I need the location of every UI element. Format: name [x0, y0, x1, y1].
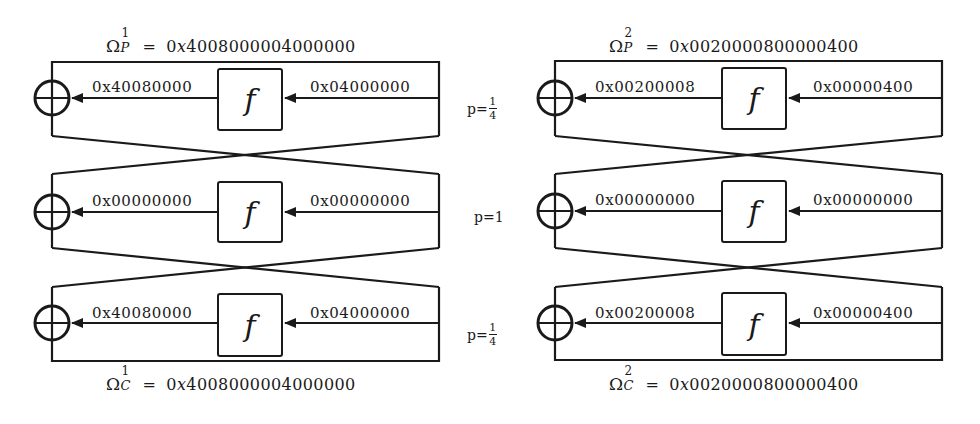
f-label: f	[748, 307, 759, 342]
xor-icon	[35, 195, 69, 229]
xor-icon	[538, 194, 572, 228]
f-input-difference: 0x00000000	[310, 194, 410, 209]
f-label: f	[748, 81, 759, 116]
f-output-difference: 0x00000000	[595, 193, 695, 208]
plaintext-difference-value: 4008000004000000	[186, 37, 355, 56]
round-3-probability: p= 14	[467, 322, 497, 347]
xor-icon	[538, 81, 572, 115]
f-label: f	[244, 82, 255, 117]
ciphertext-difference-label: Ω2C=0x0020000800000400	[609, 374, 859, 393]
ciphertext-difference-label: Ω1C=0x4008000004000000	[106, 374, 356, 393]
f-input-difference: 0x00000400	[813, 306, 913, 321]
f-label: f	[244, 308, 255, 343]
f-function-box: f	[721, 292, 787, 356]
xor-icon	[538, 306, 572, 340]
f-output-difference: 0x00200008	[595, 306, 695, 321]
xor-icon	[35, 81, 69, 115]
ciphertext-difference-value: 0020000800000400	[689, 375, 858, 394]
plaintext-difference-value: 0020000800000400	[689, 37, 858, 56]
f-input-difference: 0x04000000	[310, 306, 410, 321]
f-label: f	[748, 194, 759, 229]
f-output-difference: 0x00200008	[595, 80, 695, 95]
f-output-difference: 0x40080000	[92, 80, 192, 95]
f-function-box: f	[217, 293, 283, 357]
f-function-box: f	[721, 67, 787, 130]
ciphertext-difference-value: 4008000004000000	[186, 375, 355, 394]
feistel-diagram: f f f f f f 0x40080000 0x04000000 0x0000…	[0, 0, 980, 424]
f-label: f	[244, 195, 255, 230]
plaintext-difference-label: Ω1P=0x4008000004000000	[106, 36, 356, 55]
plaintext-difference-label: Ω2P=0x0020000800000400	[609, 36, 859, 55]
f-function-box: f	[721, 180, 787, 243]
round-2-probability: p=1	[474, 210, 504, 224]
round-1-probability: p= 14	[467, 96, 497, 121]
f-input-difference: 0x04000000	[310, 80, 410, 95]
f-input-difference: 0x00000000	[813, 193, 913, 208]
f-input-difference: 0x00000400	[813, 80, 913, 95]
f-output-difference: 0x40080000	[92, 306, 192, 321]
f-function-box: f	[217, 68, 283, 131]
xor-icon	[35, 306, 69, 340]
f-output-difference: 0x00000000	[92, 194, 192, 209]
f-function-box: f	[217, 181, 283, 243]
fraction: 14	[489, 96, 497, 121]
fraction: 14	[489, 322, 497, 347]
